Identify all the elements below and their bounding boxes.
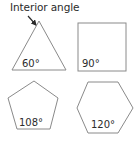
triangle-angle-label: 60° bbox=[22, 58, 40, 69]
square-angle-label: 90° bbox=[82, 58, 100, 69]
pentagon-angle-label: 108° bbox=[19, 117, 43, 128]
triangle-shape: 60° bbox=[12, 21, 66, 70]
pointer-arrow-icon bbox=[28, 16, 36, 25]
polygons-diagram: 60° 90° 108° 120° bbox=[0, 0, 138, 145]
hexagon-shape: 120° bbox=[77, 82, 133, 133]
pentagon-shape: 108° bbox=[8, 81, 58, 129]
square-shape: 90° bbox=[78, 23, 126, 71]
hexagon-angle-label: 120° bbox=[91, 119, 115, 130]
